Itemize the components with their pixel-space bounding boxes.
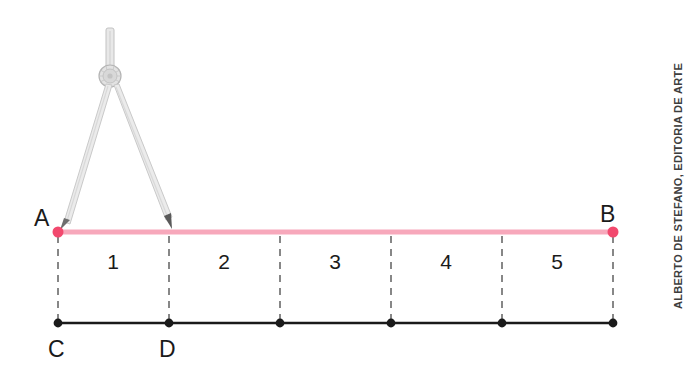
compass-right-leg-highlight — [116, 87, 168, 218]
drafting-compass — [60, 28, 172, 230]
point-B-marker — [608, 227, 619, 238]
point-label-B: B — [600, 201, 615, 227]
point-C-marker — [54, 319, 63, 328]
compass-hinge-pin — [107, 73, 112, 78]
credit-line: ALBERTO DE STEFANO, EDITORIA DE ARTE — [665, 0, 691, 371]
point-D-marker — [165, 319, 174, 328]
point-marker — [498, 319, 507, 328]
segment-label-1: 1 — [107, 250, 119, 273]
credit-text: ALBERTO DE STEFANO, EDITORIA DE ARTE — [672, 62, 684, 308]
segment-AB — [53, 227, 619, 238]
compass-left-leg-highlight — [67, 86, 108, 221]
point-label-A: A — [34, 205, 50, 231]
point-A-marker — [53, 227, 64, 238]
segment-number-labels: 1 2 3 4 5 — [107, 250, 563, 273]
point-label-C: C — [48, 336, 65, 362]
point-marker — [609, 319, 618, 328]
segment-label-5: 5 — [551, 250, 563, 273]
point-label-D: D — [159, 336, 176, 362]
dashed-connectors — [58, 236, 613, 321]
geometry-diagram: 1 2 3 4 5 A B C D — [0, 0, 693, 371]
segment-label-3: 3 — [329, 250, 341, 273]
compass-left-leg — [64, 84, 112, 224]
point-labels: A B C D — [34, 201, 615, 362]
segment-CD — [54, 319, 618, 328]
point-marker — [276, 319, 285, 328]
segment-label-2: 2 — [218, 250, 230, 273]
segment-label-4: 4 — [440, 250, 452, 273]
point-marker — [387, 319, 396, 328]
